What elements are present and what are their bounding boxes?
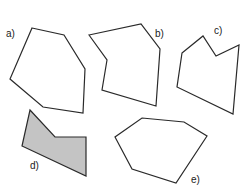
label-c: c) [214,25,222,36]
polygon-b [89,24,160,106]
shape-c: c) [177,25,239,114]
shape-b: b) [89,24,164,106]
polygons-figure: a) b) c) d) e) [0,0,247,192]
label-a: a) [6,28,15,39]
label-e: e) [191,174,200,185]
shape-d: d) [22,110,86,176]
shape-a: a) [6,28,85,113]
polygon-c [177,36,239,114]
label-b: b) [155,28,164,39]
label-d: d) [30,160,39,171]
shape-e: e) [115,118,207,185]
polygon-a [10,28,85,113]
